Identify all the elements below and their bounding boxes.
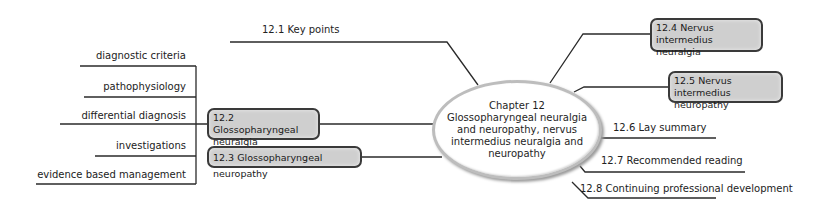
chapter-title-line2: and neuropathy, nervus (457, 124, 577, 136)
chapter-title-line3: intermedius neuralgia and (451, 136, 583, 148)
branch-12-4-nervus-intermedius-neuralgia[interactable]: 12.4 Nervus intermedius neuralgia (650, 18, 763, 52)
subtopic-diagnostic-criteria[interactable]: diagnostic criteria (86, 50, 186, 62)
box-label-line1: 12.4 Nervus intermedius (656, 22, 757, 46)
branch-12-1-key-points[interactable]: 12.1 Key points (262, 24, 339, 36)
subtopic-differential-diagnosis[interactable]: differential diagnosis (60, 110, 186, 122)
branch-12-8-continuing-professional-development[interactable]: 12.8 Continuing professional development (580, 183, 793, 195)
box-label-line1: 12.5 Nervus intermedius (674, 75, 777, 99)
chapter-title-line1: Glossopharyngeal neuralgia (447, 112, 587, 124)
branch-12-5-nervus-intermedius-neuropathy[interactable]: 12.5 Nervus intermedius neuropathy (668, 71, 783, 103)
central-topic-chapter-12[interactable]: Chapter 12 Glossopharyngeal neuralgia an… (432, 80, 602, 180)
subtopic-evidence-based-management[interactable]: evidence based management (30, 169, 186, 181)
box-label-line2: neuropathy (674, 99, 777, 111)
mind-map: 12.1 Key points diagnostic criteria path… (0, 0, 823, 210)
box-label-line1: 12.2 Glossopharyngeal (213, 112, 314, 136)
branch-12-6-lay-summary[interactable]: 12.6 Lay summary (613, 122, 706, 134)
chapter-title-line4: neuropathy (488, 148, 546, 160)
branch-12-2-glossopharyngeal-neuralgia[interactable]: 12.2 Glossopharyngeal neuralgia (207, 108, 320, 140)
chapter-number: Chapter 12 (489, 100, 545, 112)
subtopic-investigations[interactable]: investigations (86, 140, 186, 152)
branch-12-7-recommended-reading[interactable]: 12.7 Recommended reading (601, 155, 743, 167)
box-label-line2: neuralgia (656, 46, 757, 58)
subtopic-pathophysiology[interactable]: pathophysiology (86, 81, 186, 93)
branch-12-3-glossopharyngeal-neuropathy[interactable]: 12.3 Glossopharyngeal neuropathy (207, 146, 362, 168)
